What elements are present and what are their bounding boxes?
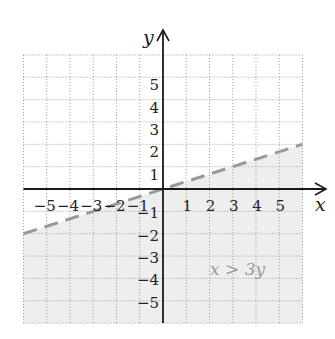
y-tick-label: 3 — [149, 121, 159, 139]
x-tick-label: −4 — [57, 197, 79, 215]
coordinate-plane: x y −5−4−3−2−112345 54321−1−2−3−4−5 x > … — [0, 0, 335, 339]
x-tick-label: −3 — [80, 197, 102, 215]
y-tick-label: 2 — [149, 143, 159, 161]
y-tick-label: 1 — [149, 166, 159, 184]
y-tick-label: 5 — [149, 76, 159, 94]
y-tick-label: −2 — [137, 227, 159, 245]
x-tick-label: −5 — [34, 197, 56, 215]
y-tick-label: 4 — [149, 99, 159, 117]
y-tick-label: −1 — [137, 204, 159, 222]
inequality-label: x > 3y — [210, 259, 265, 279]
y-tick-label: −4 — [137, 271, 159, 289]
y-axis-label: y — [142, 26, 154, 48]
y-tick-label: −5 — [137, 294, 159, 312]
y-tick-label: −3 — [137, 249, 159, 267]
x-tick-label: 2 — [206, 197, 216, 215]
x-tick-label: 1 — [182, 197, 192, 215]
x-tick-label: 4 — [252, 197, 262, 215]
x-tick-label: 5 — [275, 197, 285, 215]
x-axis-label: x — [315, 193, 326, 215]
x-tick-label: 3 — [229, 197, 239, 215]
x-tick-label: −2 — [103, 197, 125, 215]
